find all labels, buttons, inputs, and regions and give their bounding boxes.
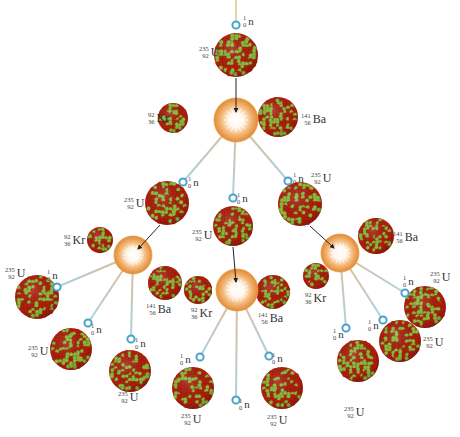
label-l3-a-uranium: 23592 U (5, 266, 25, 280)
label-l3-d-neutron: 10 n (180, 352, 191, 366)
neutron-l3-a (53, 283, 60, 290)
label-l3-h-uranium: 23592 U (423, 335, 443, 349)
label-l3-e-neutron: 10 n (239, 397, 250, 411)
label-l3-f-neutron: 10 n (272, 351, 283, 365)
label-top-uranium: 23592 U (199, 45, 219, 59)
krypton-nucleus-right (303, 263, 329, 289)
label-l3-b-neutron: 10 n (91, 322, 102, 336)
uranium-nucleus-l2-left (145, 181, 189, 225)
label-left-krypton: 9236 Kr (64, 233, 85, 247)
label-top-krypton: 9236 Kr (148, 111, 169, 125)
label-top-neutron: 10 n (243, 14, 254, 28)
neutron-l3-c (127, 335, 134, 342)
label-l2-right-neutron: 10 n (293, 171, 304, 185)
neutron-l2-right (284, 177, 291, 184)
label-l3-c-neutron: 10 n (135, 336, 146, 350)
barium-nucleus-top (258, 97, 298, 137)
fission-chain-diagram: 10 n 23592 U 9236 Kr 14156 Ba 10 n 23592… (0, 0, 460, 437)
label-l2-right-uranium: 23592 U (311, 171, 331, 185)
uranium-nucleus-l3-b (50, 328, 92, 370)
label-l3-b-uranium: 23592 U (28, 344, 48, 358)
neutron-l2-left (179, 178, 186, 185)
uranium-nucleus-l3-f (261, 367, 303, 409)
label-right-barium: 14156 Ba (393, 230, 418, 244)
neutron-l2-mid (229, 194, 236, 201)
label-left-barium: 14156 Ba (146, 302, 171, 316)
label-l2-mid-neutron: 10 n (237, 191, 248, 205)
label-l3-c-uranium: 23592 U (118, 390, 138, 404)
fission-flash-right (321, 234, 359, 272)
label-l2-left-neutron: 10 n (188, 175, 199, 189)
nuclei-layer (15, 33, 446, 409)
fission-flash-mid (216, 269, 258, 311)
neutron-top (232, 21, 239, 28)
label-l3-d-uranium: 23592 U (181, 412, 201, 426)
label-right-krypton: 9236 Kr (305, 291, 326, 305)
barium-nucleus-left (148, 266, 182, 300)
barium-nucleus-right (358, 218, 394, 254)
uranium-nucleus-top (214, 33, 258, 77)
label-l3-a-neutron: 10 n (47, 268, 58, 282)
label-mid-krypton: 9236 Kr (191, 306, 212, 320)
barium-nucleus-mid (256, 275, 290, 309)
uranium-nucleus-l2-right (278, 182, 322, 226)
label-l2-left-uranium: 23592 U (124, 196, 144, 210)
diagram-canvas (0, 0, 460, 437)
krypton-nucleus-mid (184, 276, 212, 304)
uranium-nucleus-l3-c (109, 350, 151, 392)
neutron-l3-d (196, 353, 203, 360)
neutron-l3-h (379, 316, 386, 323)
label-l3-g-uranium: 23592 U (344, 405, 364, 419)
uranium-nucleus-l2-mid (213, 206, 253, 246)
uranium-nucleus-l3-d (172, 367, 214, 409)
label-l3-i-neutron: 10 n (403, 274, 414, 288)
label-mid-barium: 14156 Ba (258, 311, 283, 325)
krypton-nucleus-left (87, 227, 113, 253)
uranium-nucleus-l3-h (379, 320, 421, 362)
label-l2-mid-uranium: 23592 U (192, 228, 212, 242)
label-l3-i-uranium: 23592 U (430, 270, 450, 284)
label-l3-h-neutron: 10 n (368, 318, 379, 332)
label-top-barium: 14156 Ba (301, 112, 326, 126)
uranium-nucleus-l3-i (404, 286, 446, 328)
uranium-nucleus-l3-g (337, 340, 379, 382)
label-l3-g-neutron: 10 n (333, 327, 344, 341)
fission-flash-left (114, 236, 152, 274)
neutron-l3-i (401, 289, 408, 296)
label-l3-f-uranium: 23592 U (267, 413, 287, 427)
